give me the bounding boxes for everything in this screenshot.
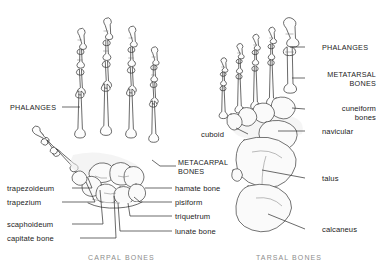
label-pisiform: pisiform	[175, 198, 202, 207]
label-navicular: navicular	[322, 127, 353, 136]
label-talus: talus	[322, 174, 339, 183]
label-cuneiform-bones-line2: bones	[300, 113, 376, 122]
label-calcaneus: calcaneus	[322, 225, 357, 234]
toe-little	[219, 58, 228, 119]
label-foot-phalanges: PHALANGES	[322, 43, 368, 52]
toe-third	[251, 34, 261, 109]
toe-fourth	[235, 43, 244, 113]
label-triquetrum: triquetrum	[175, 212, 210, 221]
label-trapezoideum: trapezoideum	[7, 184, 54, 193]
label-metacarpal-bones-line2: BONES	[178, 167, 204, 176]
hand-skeleton	[32, 18, 176, 238]
anatomical-figure: .bone{fill:#fdfdfd;stroke:#3a3a3a;stroke…	[0, 0, 382, 275]
toe-big	[283, 18, 299, 94]
finger-index	[75, 28, 87, 138]
label-cuneiform-bones-line1: cuneiform	[300, 104, 376, 113]
caption-carpal-bones: CARPAL BONES	[88, 254, 155, 261]
label-capitate-bone: capitate bone	[7, 234, 54, 243]
calcaneus-bone	[236, 184, 292, 232]
label-trapezium: trapezium	[7, 198, 41, 207]
label-cuboid: cuboid	[201, 130, 224, 139]
finger-little	[149, 47, 159, 143]
toe-second	[267, 27, 277, 105]
label-hand-phalanges: PHALANGES	[10, 103, 56, 112]
label-metatarsal-bones-line2: BONES	[300, 79, 376, 88]
foot-skeleton	[219, 18, 305, 232]
label-scaphoideum: scaphoideum	[7, 220, 53, 229]
finger-middle	[100, 18, 112, 136]
finger-ring	[126, 26, 138, 138]
caption-tarsal-bones: TARSAL BONES	[256, 254, 322, 261]
label-lunate-bone: lunate bone	[175, 227, 216, 236]
label-hamate-bone: hamate bone	[175, 184, 220, 193]
label-metatarsal-bones-line1: METATARSAL	[300, 70, 376, 79]
label-metacarpal-bones-line1: METACARPAL	[178, 158, 228, 167]
